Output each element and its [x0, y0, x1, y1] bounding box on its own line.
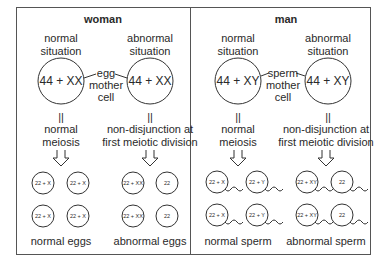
woman-normal-situation-line2: situation: [41, 45, 82, 57]
sperm-tail: [315, 187, 333, 191]
man-abnormal-equals: ||: [325, 111, 331, 123]
sperm-tail: [265, 187, 283, 191]
man-abnormal-process-line2: first meiotic division: [278, 136, 373, 148]
man-abnormal-karyotype: 44 + XY: [306, 74, 349, 88]
sperm-tail: [315, 220, 333, 224]
man-normal-karyotype: 44 + XY: [216, 74, 259, 88]
woman-normal-process-line2: meiosis: [42, 136, 80, 148]
abnormal-eggs-group: 22 + XX 22 22 + XX 22: [122, 172, 178, 227]
woman-normal-equals: ||: [58, 111, 64, 123]
egg-cell-label: 22 + X: [35, 213, 51, 219]
woman-normal-situation-line1: normal: [44, 32, 78, 44]
woman-abnormal-karyotype: 44 + XX: [128, 74, 171, 88]
sperm-cell-label: 22 + XY: [297, 179, 317, 185]
man-panel: man normal situation abnormal situation …: [204, 13, 373, 247]
man-normal-situation-line2: situation: [218, 45, 259, 57]
woman-normal-process-line1: normal: [44, 123, 78, 135]
egg-cell-label: 22 + X: [70, 213, 86, 219]
abnormal-sperm-caption: abnormal sperm: [286, 235, 365, 247]
woman-panel: woman normal situation abnormal situatio…: [31, 13, 198, 247]
man-normal-down-arrow-icon: [230, 150, 246, 166]
egg-cell-label: 22 + X: [35, 180, 51, 186]
woman-abnormal-equals: ||: [147, 111, 153, 123]
woman-normal-down-arrow-icon: [53, 150, 69, 166]
woman-abnormal-situation-line2: situation: [130, 45, 171, 57]
sperm-cell-label: 22: [339, 179, 345, 185]
woman-abnormal-process-line2: first meiotic division: [102, 136, 197, 148]
man-normal-process-line2: meiosis: [219, 136, 257, 148]
panel-title-man: man: [275, 13, 298, 25]
sperm-cell-label: 22 + XY: [297, 212, 317, 218]
man-normal-process-line1: normal: [221, 123, 255, 135]
egg-mother-cell-line2: mother: [89, 79, 124, 91]
man-abnormal-situation-line2: situation: [308, 45, 349, 57]
man-abnormal-situation-line1: abnormal: [305, 32, 351, 44]
egg-cell-label: 22: [164, 213, 170, 219]
sperm-cell-label: 22 + Y: [249, 212, 265, 218]
woman-abnormal-process-line1: non-disjunction at: [107, 123, 193, 135]
man-normal-situation-line1: normal: [221, 32, 255, 44]
egg-mother-cell-line1: egg: [97, 67, 115, 79]
sperm-tail: [225, 187, 243, 191]
abnormal-eggs-caption: abnormal eggs: [114, 235, 187, 247]
panel-title-woman: woman: [83, 13, 122, 25]
normal-eggs-group: 22 + X 22 + X 22 + X 22 + X: [32, 172, 89, 227]
abnormal-sperm-group: 22 + XY 22 22 + XY 22: [296, 171, 368, 226]
sperm-cell-label: 22 + X: [209, 212, 225, 218]
normal-sperm-group: 22 + X 22 + Y 22 + X 22 + Y: [206, 171, 283, 226]
sperm-mother-cell-line2: mother: [266, 79, 301, 91]
egg-mother-cell-line3: cell: [98, 91, 115, 103]
man-normal-equals: ||: [235, 111, 241, 123]
woman-abnormal-down-arrow-icon: [142, 150, 158, 166]
egg-cell-label: 22 + XX: [123, 180, 143, 186]
egg-cell-label: 22 + X: [70, 180, 86, 186]
man-abnormal-process-line1: non-disjunction at: [283, 123, 369, 135]
normal-eggs-caption: normal eggs: [31, 235, 92, 247]
sperm-cell-label: 22: [339, 212, 345, 218]
sperm-mother-cell-line1: sperm: [268, 67, 299, 79]
man-abnormal-down-arrow-icon: [318, 150, 334, 166]
sperm-tail: [265, 220, 283, 224]
sperm-cell-label: 22 + X: [209, 179, 225, 185]
sperm-mother-cell-line3: cell: [275, 91, 292, 103]
normal-sperm-caption: normal sperm: [204, 235, 271, 247]
egg-cell-label: 22 + XX: [123, 213, 143, 219]
sperm-tail: [350, 220, 368, 224]
sperm-cell-label: 22 + Y: [249, 179, 265, 185]
woman-abnormal-situation-line1: abnormal: [127, 32, 173, 44]
sperm-tail: [350, 187, 368, 191]
woman-normal-karyotype: 44 + XX: [39, 74, 82, 88]
woman-connector-right: [115, 74, 127, 78]
woman-connector-left: [84, 74, 96, 78]
egg-cell-label: 22: [164, 180, 170, 186]
sperm-tail: [225, 220, 243, 224]
meiosis-diagram: woman normal situation abnormal situatio…: [0, 0, 380, 267]
